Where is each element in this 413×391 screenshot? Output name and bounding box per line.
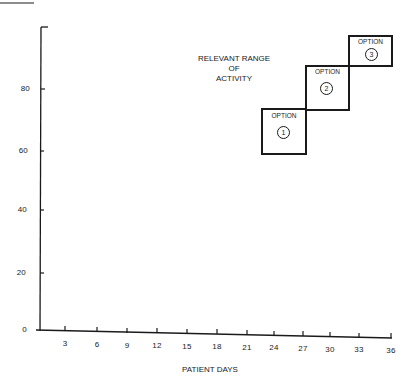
x-tick-label-36: 36 <box>379 346 403 355</box>
x-tick-label-24: 24 <box>262 343 286 352</box>
y-tick-label-40: 40 <box>7 205 27 214</box>
option-1-label: OPTION <box>262 112 306 119</box>
y-axis <box>40 27 41 331</box>
x-tick-label-21: 21 <box>235 343 259 352</box>
annotation-line-3: ACTIVITY <box>178 74 290 84</box>
x-tick-label-12: 12 <box>145 341 169 350</box>
x-tick-label-27: 27 <box>291 344 315 353</box>
x-tick-label-33: 33 <box>347 345 371 354</box>
x-tick-label-3: 3 <box>53 339 77 348</box>
option-2-label: OPTION <box>306 68 349 75</box>
option-3-label: OPTION <box>349 38 392 45</box>
y-tick-label-60: 60 <box>8 146 28 155</box>
x-axis <box>36 330 392 338</box>
x-axis-title: PATIENT DAYS <box>160 365 260 374</box>
x-tick-label-15: 15 <box>175 342 199 351</box>
y-tick-label-80: 80 <box>10 84 30 93</box>
y-tick-label-0: 0 <box>7 325 27 334</box>
option-1-number: 1 <box>277 126 290 139</box>
x-tick-label-30: 30 <box>318 345 342 354</box>
option-3-number: 3 <box>365 48 378 61</box>
annotation-line-1: RELEVANT RANGE <box>178 54 290 64</box>
relevant-range-annotation: RELEVANT RANGE OF ACTIVITY <box>178 54 290 84</box>
y-tick-label-20: 20 <box>6 268 26 277</box>
annotation-line-2: OF <box>178 64 290 74</box>
option-2-number: 2 <box>320 82 333 95</box>
x-tick-label-18: 18 <box>205 342 229 351</box>
x-tick-label-6: 6 <box>85 340 109 349</box>
x-tick-label-9: 9 <box>115 341 139 350</box>
